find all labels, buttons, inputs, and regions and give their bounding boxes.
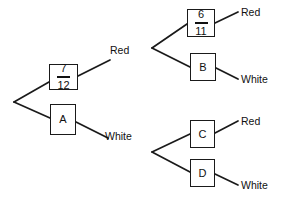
- edge-box-a-out: [76, 122, 108, 138]
- edge-six-elevenths-to-red: [215, 12, 238, 23]
- node-box-seven-twelfths[interactable]: 7 12: [49, 64, 78, 90]
- fraction-seven-twelfths: 7 12: [57, 63, 70, 90]
- edge-root-to-seven-twelfths: [14, 82, 49, 102]
- node-box-d-label: D: [199, 168, 207, 179]
- edge-vertex-top-to-box-b: [152, 48, 190, 67]
- edge-vertex-bottom-to-box-d: [152, 152, 190, 172]
- edge-box-c-to-red: [215, 121, 238, 133]
- node-box-c[interactable]: C: [190, 120, 215, 148]
- fraction-bar: [195, 22, 208, 23]
- fraction-numerator: 6: [198, 9, 204, 21]
- edge-box-b-to-white: [216, 68, 238, 79]
- node-box-b[interactable]: B: [190, 53, 216, 81]
- fraction-denominator: 11: [195, 25, 206, 37]
- node-box-d[interactable]: D: [190, 159, 215, 187]
- node-box-a[interactable]: A: [50, 104, 76, 135]
- edge-vertex-top-to-six-elevenths: [152, 24, 187, 48]
- edge-vertex-bottom-to-box-c: [152, 134, 190, 152]
- outcome-label-top-red: Red: [241, 7, 260, 18]
- tree-edge-lines: [0, 0, 288, 203]
- node-box-a-label: A: [59, 114, 66, 125]
- node-box-six-elevenths[interactable]: 6 11: [187, 9, 215, 37]
- edge-label-white: White: [105, 131, 132, 142]
- outcome-label-bottom-red: Red: [241, 116, 260, 127]
- edge-label-red: Red: [110, 45, 129, 56]
- outcome-label-bottom-white: White: [241, 180, 268, 191]
- node-box-b-label: B: [199, 62, 206, 73]
- node-box-c-label: C: [199, 129, 207, 140]
- fraction-bar: [57, 76, 70, 77]
- fraction-numerator: 7: [60, 63, 66, 75]
- edge-seven-twelfths-out: [78, 60, 110, 76]
- probability-tree-diagram: 7 12 A Red White 6 11 B C D Red White Re…: [0, 0, 288, 203]
- edge-root-to-box-a: [14, 102, 50, 118]
- fraction-denominator: 12: [57, 79, 69, 91]
- fraction-six-elevenths: 6 11: [195, 9, 208, 36]
- outcome-label-top-white: White: [241, 74, 268, 85]
- edge-box-d-to-white: [215, 174, 238, 185]
